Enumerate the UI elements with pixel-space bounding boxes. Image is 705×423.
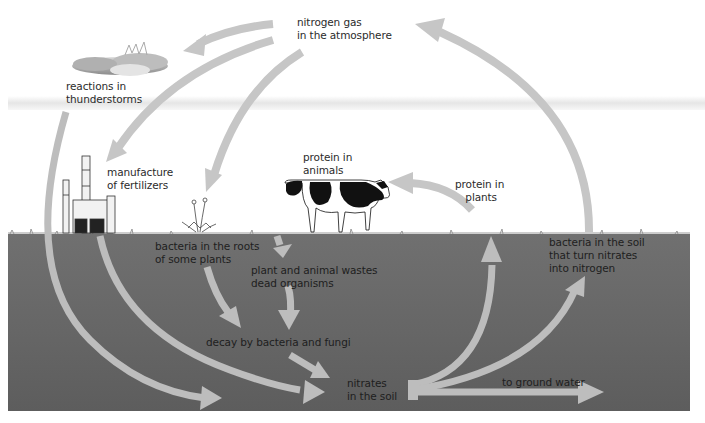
label-fertilizers: manufacture of fertilizers — [107, 166, 173, 192]
label-ground-water: to ground water — [502, 376, 585, 389]
label-denitrifying-bacteria: bacteria in the soil that turn nitrates … — [549, 236, 645, 275]
label-decay: decay by bacteria and fungi — [206, 336, 351, 349]
nitrogen-cycle-diagram: nitrogen gas in the atmosphere reactions… — [0, 0, 705, 423]
plant-icon — [182, 198, 216, 232]
thundercloud-icon — [72, 42, 168, 76]
label-thunderstorms: reactions in thunderstorms — [66, 80, 142, 106]
arrow-atmosphere-to-roots — [214, 52, 302, 175]
label-wastes: plant and animal wastes dead organisms — [251, 264, 377, 290]
label-protein-animals: protein in animals — [303, 151, 352, 177]
label-protein-plants: protein in plants — [455, 178, 497, 204]
cow-icon — [285, 180, 390, 232]
label-root-bacteria: bacteria in the roots of some plants — [155, 240, 259, 266]
arrow-animals-to-wastes — [277, 236, 280, 245]
diagram-canvas — [0, 0, 705, 423]
label-nitrates: nitrates in the soil — [347, 377, 397, 403]
label-nitrogen-atmosphere: nitrogen gas in the atmosphere — [297, 16, 392, 42]
